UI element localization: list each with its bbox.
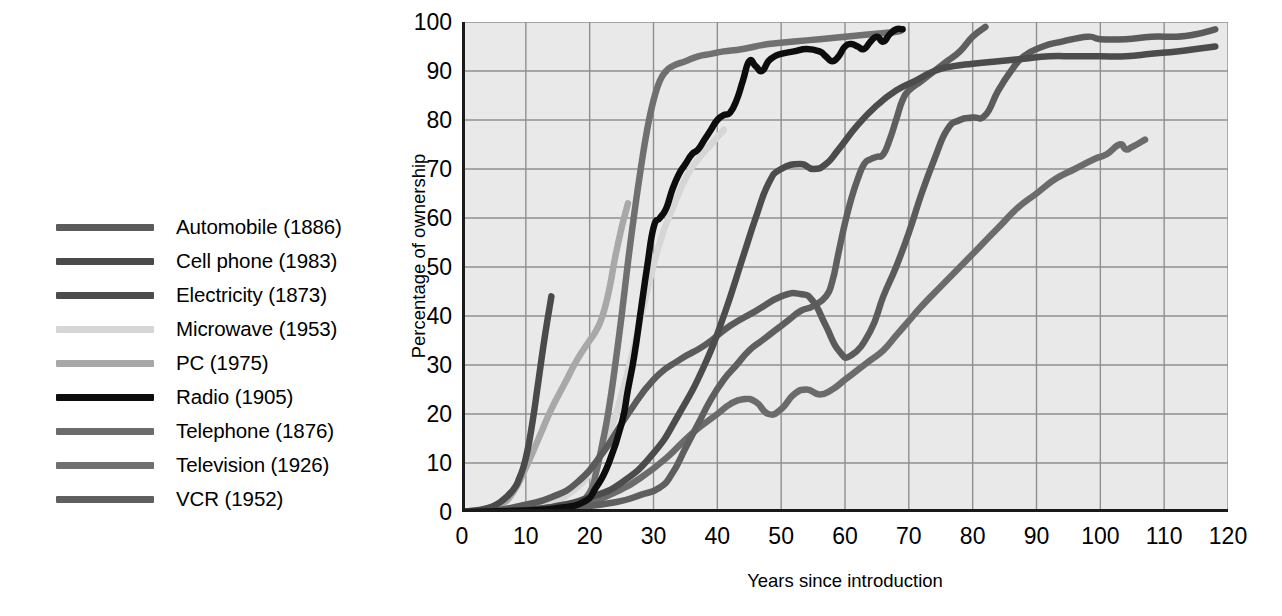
legend-item-label: Cell phone (1983) [176, 249, 337, 273]
legend-item-label: VCR (1952) [176, 487, 283, 511]
legend-item-label: Microwave (1953) [176, 317, 337, 341]
legend-item[interactable]: Telephone (1876) [56, 414, 386, 448]
grid-lines [462, 22, 1228, 512]
x-tick-label: 60 [815, 525, 875, 548]
legend-item[interactable]: Electricity (1873) [56, 278, 386, 312]
x-tick-label: 80 [943, 525, 1003, 548]
y-tick-label: 30 [394, 354, 452, 377]
plot-area [462, 22, 1228, 512]
legend-item[interactable]: Automobile (1886) [56, 210, 386, 244]
legend-item-label: Television (1926) [176, 453, 329, 477]
series-line [462, 140, 1145, 512]
y-axis-ticks: 0102030405060708090100 [390, 0, 452, 616]
y-tick-label: 90 [394, 60, 452, 83]
x-axis-label: Years since introduction [462, 570, 1228, 592]
legend-item[interactable]: Television (1926) [56, 448, 386, 482]
x-tick-label: 120 [1198, 525, 1258, 548]
y-tick-label: 70 [394, 158, 452, 181]
legend-item-label: PC (1975) [176, 351, 269, 375]
legend-item-label: Telephone (1876) [176, 419, 334, 443]
y-tick-label: 100 [394, 11, 452, 34]
y-tick-label: 40 [394, 305, 452, 328]
y-tick-label: 50 [394, 256, 452, 279]
legend-color-swatch [56, 360, 154, 367]
plot-svg [462, 22, 1228, 512]
x-tick-label: 110 [1134, 525, 1194, 548]
legend-color-swatch [56, 496, 154, 503]
y-tick-label: 80 [394, 109, 452, 132]
x-tick-label: 100 [1070, 525, 1130, 548]
legend-color-swatch [56, 428, 154, 435]
legend-item[interactable]: VCR (1952) [56, 482, 386, 516]
y-tick-label: 20 [394, 403, 452, 426]
legend-color-swatch [56, 394, 154, 401]
x-tick-label: 0 [432, 525, 492, 548]
x-axis-line [462, 509, 1228, 512]
x-tick-label: 40 [687, 525, 747, 548]
legend-color-swatch [56, 292, 154, 299]
legend-item-label: Radio (1905) [176, 385, 293, 409]
x-tick-label: 10 [496, 525, 556, 548]
x-tick-label: 90 [1007, 525, 1067, 548]
legend-color-swatch [56, 326, 154, 333]
legend-color-swatch [56, 258, 154, 265]
y-tick-label: 60 [394, 207, 452, 230]
series-line [462, 29, 1215, 512]
series-line [462, 296, 551, 512]
x-tick-label: 70 [879, 525, 939, 548]
y-tick-label: 0 [394, 501, 452, 524]
legend-item[interactable]: Microwave (1953) [56, 312, 386, 346]
series-line [462, 47, 1215, 513]
x-tick-label: 30 [624, 525, 684, 548]
y-tick-label: 10 [394, 452, 452, 475]
y-axis-line [462, 22, 465, 512]
chart-legend: Automobile (1886)Cell phone (1983)Electr… [56, 210, 386, 516]
legend-item-label: Electricity (1873) [176, 283, 327, 307]
x-tick-label: 50 [751, 525, 811, 548]
legend-item-label: Automobile (1886) [176, 215, 342, 239]
technology-adoption-chart: Automobile (1886)Cell phone (1983)Electr… [0, 0, 1282, 616]
legend-item[interactable]: Radio (1905) [56, 380, 386, 414]
legend-item[interactable]: Cell phone (1983) [56, 244, 386, 278]
x-axis-ticks: 0102030405060708090100110120 [462, 525, 1228, 557]
legend-color-swatch [56, 224, 154, 231]
legend-item[interactable]: PC (1975) [56, 346, 386, 380]
x-tick-label: 20 [560, 525, 620, 548]
legend-color-swatch [56, 462, 154, 469]
